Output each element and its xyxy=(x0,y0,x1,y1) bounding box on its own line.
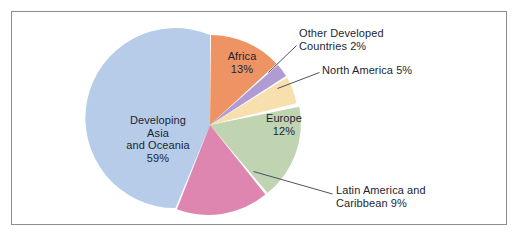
slice-label-developing-asia-and-oceania: Developing Asia and Oceania 59% xyxy=(106,114,210,164)
callout-label-latin-america-and-caribbean: Latin America and Caribbean 9% xyxy=(336,184,476,210)
leader-line-other-developed-countries xyxy=(269,46,297,73)
slice-label-europe: Europe 12% xyxy=(254,112,314,137)
callout-label-north-america: North America 5% xyxy=(322,64,458,77)
slice-label-africa: Africa 13% xyxy=(213,50,271,75)
callout-label-other-developed-countries: Other Developed Countries 2% xyxy=(299,27,427,53)
pie-chart-figure: Developing Asia and Oceania 59% Africa 1… xyxy=(0,0,524,244)
